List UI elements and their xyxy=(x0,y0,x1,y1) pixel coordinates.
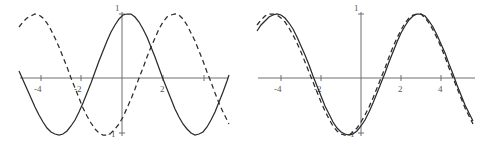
plot-svg-left: -4 -2 2 1 -1 xyxy=(0,0,243,153)
curve-solid-left xyxy=(19,14,229,135)
plot-panel-left: -4 -2 2 1 -1 xyxy=(0,0,243,153)
curve-dashed-right xyxy=(257,14,473,135)
x-tick-label-neg4: -4 xyxy=(274,84,282,94)
plot-panel-right: -4 -2 2 4 1 -1 xyxy=(243,0,486,153)
curve-solid-right xyxy=(257,14,473,135)
x-tick-label-pos4: 4 xyxy=(438,84,443,94)
x-tick-label-pos2: 2 xyxy=(160,84,165,94)
plot-svg-right: -4 -2 2 4 1 -1 xyxy=(243,0,486,153)
y-tick-label-neg1: -1 xyxy=(108,129,116,139)
x-tick-label-neg2: -2 xyxy=(74,84,82,94)
y-tick-label-pos1: 1 xyxy=(115,3,120,13)
y-tick-label-pos1: 1 xyxy=(354,3,359,13)
curve-dashed-left xyxy=(19,14,229,135)
x-tick-label-pos2: 2 xyxy=(398,84,403,94)
x-tick-label-neg4: -4 xyxy=(34,84,42,94)
two-panel-cosine-figure: -4 -2 2 1 -1 -4 -2 2 4 1 -1 xyxy=(0,0,486,153)
